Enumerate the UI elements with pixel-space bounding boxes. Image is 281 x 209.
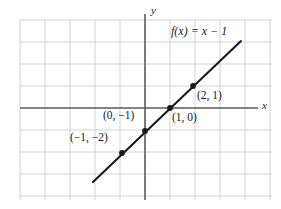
point-neg1-neg2 — [119, 150, 125, 156]
y-axis-label: y — [151, 5, 156, 16]
point-label-0-neg1: (0, −1) — [103, 110, 134, 122]
point-label-2-1: (2, 1) — [197, 90, 222, 102]
function-graph-figure: y x f(x) = x − 1 (2, 1) (1, 0) (0, −1) (… — [0, 0, 281, 209]
point-label-neg1-neg2: (−1, −2) — [70, 132, 108, 144]
point-2-1 — [190, 83, 196, 89]
point-0-neg1 — [142, 128, 148, 134]
point-label-1-0: (1, 0) — [172, 112, 197, 124]
x-axis-label: x — [262, 100, 267, 111]
function-equation-label: f(x) = x − 1 — [171, 25, 227, 37]
plot-canvas — [0, 0, 281, 209]
